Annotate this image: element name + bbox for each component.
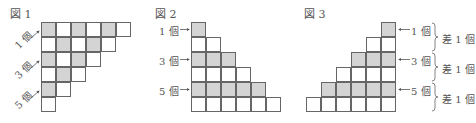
figure-1-arrows: [31, 31, 39, 98]
figure-3-arrows: [399, 30, 410, 90]
figure-2-arrows: [180, 30, 189, 90]
arrows-and-brackets: [0, 0, 476, 123]
figure-3-brackets: [432, 23, 438, 111]
